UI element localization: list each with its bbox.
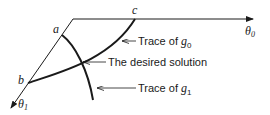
trace-g1-curve	[62, 35, 93, 100]
trace-g0-label: Trace of g0	[138, 34, 192, 50]
trace-g0-curve	[28, 19, 135, 83]
theta0-label: θ0	[245, 24, 255, 39]
diagram-canvas: a b c θ0 θ1 Trace of g0 The desired solu…	[0, 0, 270, 115]
trace-g1-label: Trace of g1	[138, 81, 192, 97]
desired-solution-label: The desired solution	[108, 56, 207, 68]
point-a-label: a	[53, 22, 59, 36]
point-c-label: c	[132, 3, 138, 17]
theta1-axis	[11, 19, 73, 108]
point-b-label: b	[18, 73, 24, 87]
theta1-label: θ1	[18, 97, 28, 112]
